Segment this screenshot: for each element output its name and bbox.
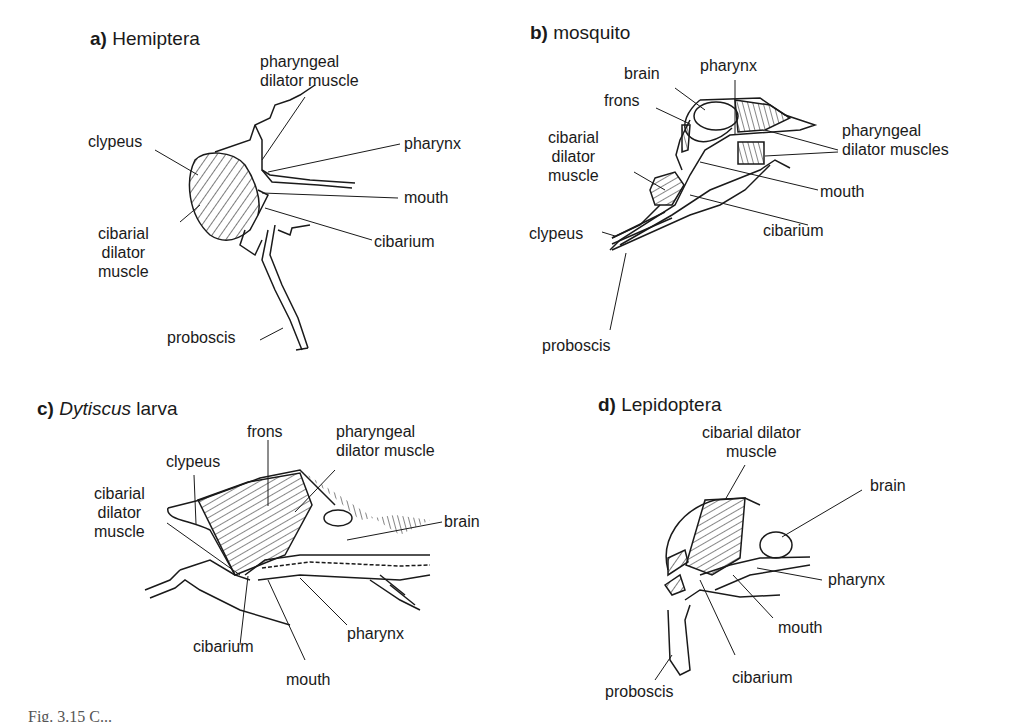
label-cibarium: cibarium [193,637,253,656]
label-line: pharyngeal [336,422,435,441]
label-clypeus: clypeus [529,224,583,243]
panel-letter: b) [530,22,548,43]
label-cibarial-dilator-muscle: cibarial dilator muscle [94,484,145,541]
label-brain: brain [624,64,660,83]
panel-title-text: mosquito [553,22,630,43]
label-pharynx: pharynx [828,570,885,589]
label-line: muscle [702,442,801,461]
panel-a-title: a) Hemiptera [90,28,200,50]
label-cibarium: cibarium [732,668,792,687]
label-cibarial-dilator-muscle: cibarial dilator muscle [548,128,599,185]
label-mouth: mouth [820,182,864,201]
panel-c-title: c) Dytiscus larva [37,398,177,420]
label-line: pharyngeal [842,121,949,140]
label-frons: frons [247,422,283,441]
label-line: pharyngeal [260,52,359,71]
label-clypeus: clypeus [166,452,220,471]
label-pharyngeal-dilator-muscle: pharyngeal dilator muscle [260,52,359,90]
label-frons: frons [604,91,640,110]
label-pharynx: pharynx [347,624,404,643]
label-mouth: mouth [286,670,330,689]
label-pharynx: pharynx [700,56,757,75]
label-line: dilator [548,147,599,166]
label-line: cibarial [98,224,149,243]
panel-b-title: b) mosquito [530,22,630,44]
label-brain: brain [444,512,480,531]
label-proboscis: proboscis [542,336,610,355]
label-line: cibarial dilator [702,423,801,442]
label-clypeus: clypeus [88,132,142,151]
label-line: muscle [548,166,599,185]
label-line: muscle [94,522,145,541]
label-line: cibarial [548,128,599,147]
label-proboscis: proboscis [167,328,235,347]
hemiptera-leaders [155,97,400,340]
label-line: dilator [94,503,145,522]
label-line: dilator muscle [336,441,435,460]
panel-letter: c) [37,398,54,419]
dytiscus-drawing [145,470,430,625]
label-mouth: mouth [778,618,822,637]
label-cibarial-dilator-muscle: cibarial dilator muscle [702,423,801,461]
figure-caption: Fig. 3.15 C... [28,708,112,722]
label-mouth: mouth [404,188,448,207]
label-line: dilator [98,243,149,262]
label-cibarial-dilator-muscle: cibarial dilator muscle [98,224,149,281]
panel-d-title: d) Lepidoptera [598,394,722,416]
panel-title-text: larva [131,398,177,419]
label-line: cibarial [94,484,145,503]
diagram-artwork [0,0,1017,722]
label-line: dilator muscle [260,71,359,90]
panel-title-text: Lepidoptera [621,394,721,415]
label-cibarium: cibarium [763,221,823,240]
label-pharyngeal-dilator-muscle: pharyngeal dilator muscle [336,422,435,460]
label-cibarium: cibarium [374,232,434,251]
hemiptera-drawing [190,85,355,350]
panel-letter: a) [90,28,107,49]
label-pharyngeal-dilator-muscles: pharyngeal dilator muscles [842,121,949,159]
label-line: muscle [98,262,149,281]
label-line: dilator muscles [842,140,949,159]
panel-letter: d) [598,394,616,415]
panel-title-italic: Dytiscus [59,398,131,419]
label-proboscis: proboscis [605,682,673,701]
label-pharynx: pharynx [404,134,461,153]
label-brain: brain [870,476,906,495]
panel-title-text: Hemiptera [112,28,200,49]
lepidoptera-drawing [665,498,810,675]
